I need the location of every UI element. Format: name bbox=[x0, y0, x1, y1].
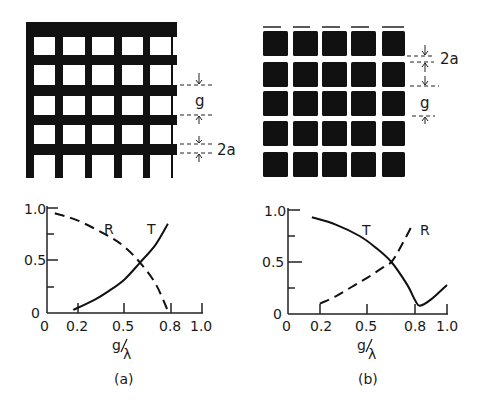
metal-square bbox=[382, 91, 405, 116]
metal-square bbox=[293, 121, 318, 146]
gap-label-a: g bbox=[195, 92, 205, 110]
caption-a: (a) bbox=[114, 371, 134, 387]
caption-b: (b) bbox=[358, 371, 378, 387]
metal-square bbox=[322, 91, 347, 116]
metal-square bbox=[382, 31, 405, 56]
y-tick-05-b: 0.5 bbox=[262, 254, 284, 270]
square-array-b bbox=[263, 27, 405, 177]
metal-square bbox=[293, 62, 318, 87]
x-tick-1-a: 1.0 bbox=[190, 318, 212, 334]
metal-square bbox=[351, 62, 376, 87]
y-tick-1-a: 1.0 bbox=[24, 201, 46, 217]
metal-square bbox=[293, 91, 318, 116]
axes-a bbox=[47, 206, 203, 313]
x-label-num-b: g bbox=[357, 337, 366, 353]
curve-label-T-b: T bbox=[361, 222, 371, 238]
y-tick-05-a: 0.5 bbox=[24, 252, 46, 268]
curve-label-R-a: R bbox=[104, 221, 114, 237]
curve-label-R-b: R bbox=[420, 222, 430, 238]
figure-canvas: g 2a 2a g bbox=[0, 0, 482, 406]
y-tick-0-b: 0 bbox=[273, 306, 282, 322]
metal-square bbox=[293, 31, 318, 56]
x-tick-05-b: 0.5 bbox=[355, 318, 377, 334]
x-tick-02-b: 0.2 bbox=[310, 318, 332, 334]
metal-square bbox=[351, 121, 376, 146]
curve-label-T-a: T bbox=[146, 221, 156, 237]
metal-square bbox=[263, 91, 288, 116]
metal-square bbox=[382, 152, 405, 177]
y-tick-1-b: 1.0 bbox=[264, 203, 286, 219]
width-label-a: 2a bbox=[217, 141, 236, 159]
metal-square bbox=[382, 62, 405, 87]
metal-square bbox=[293, 152, 318, 177]
width-label-b: 2a bbox=[440, 50, 459, 68]
x-tick-08-a: 0.8 bbox=[159, 318, 181, 334]
mesh-grid-a bbox=[26, 22, 177, 178]
dimension-marks-b bbox=[407, 45, 439, 124]
plot-a: R T 1.0 0.5 0 0 0.2 0.5 0.8 1.0 g λ (a) bbox=[24, 201, 212, 387]
metal-square bbox=[322, 31, 347, 56]
metal-square bbox=[351, 31, 376, 56]
metal-square bbox=[263, 62, 288, 87]
metal-square bbox=[382, 121, 405, 146]
metal-square bbox=[351, 152, 376, 177]
dimension-marks-a bbox=[180, 73, 215, 162]
gap-label-b: g bbox=[420, 94, 430, 112]
x-label-den-a: λ bbox=[123, 346, 131, 362]
metal-square bbox=[263, 121, 288, 146]
y-tick-0-a: 0 bbox=[31, 305, 40, 321]
metal-square bbox=[263, 31, 288, 56]
x-label-num-a: g bbox=[112, 337, 121, 353]
x-tick-0-a: 0 bbox=[40, 318, 49, 334]
x-tick-1-b: 1.0 bbox=[436, 318, 458, 334]
metal-square bbox=[351, 91, 376, 116]
x-tick-0-b: 0 bbox=[282, 318, 291, 334]
metal-square bbox=[322, 62, 347, 87]
x-tick-08-b: 0.8 bbox=[404, 318, 426, 334]
metal-square bbox=[322, 152, 347, 177]
x-tick-05-a: 0.5 bbox=[112, 318, 134, 334]
x-tick-02-a: 0.2 bbox=[66, 318, 88, 334]
x-label-den-b: λ bbox=[368, 346, 376, 362]
plot-b: T R 1.0 0.5 0 0 0.2 0.5 0.8 1.0 g λ (b) bbox=[262, 203, 458, 387]
metal-square bbox=[322, 121, 347, 146]
metal-square bbox=[263, 152, 288, 177]
